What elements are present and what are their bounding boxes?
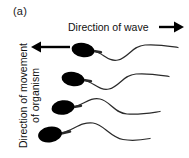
organism-4 (37, 123, 150, 144)
organism-2-tail (84, 74, 169, 90)
organism-2-head (61, 70, 86, 88)
organism-1 (71, 41, 178, 60)
organism-direction-arrow (31, 42, 70, 53)
organism-3-head (51, 99, 76, 116)
organism-1-head (71, 41, 96, 59)
diagram-canvas (0, 0, 189, 158)
organism-3 (51, 99, 160, 116)
organism-2 (61, 70, 169, 89)
organism-4-head (37, 125, 63, 145)
organism-3-tail (74, 99, 160, 115)
figure-panel-a: (a) Direction of wave Direction of movem… (0, 0, 189, 158)
organism-4-tail (62, 123, 150, 141)
organism-1-tail (94, 45, 178, 61)
wave-direction-arrow (159, 22, 184, 33)
